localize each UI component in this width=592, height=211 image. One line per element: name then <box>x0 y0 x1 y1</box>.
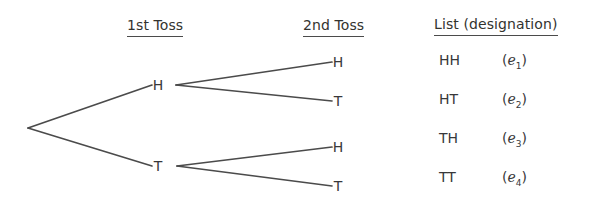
outcome-row: HH (e1) <box>434 46 584 85</box>
branch-h-to-ht <box>176 85 332 101</box>
outcome-pair: TT <box>439 169 456 185</box>
branch-h-to-hh <box>176 62 332 85</box>
outcome-index: 2 <box>516 100 522 110</box>
column-header-second-toss: 2nd Toss <box>303 17 364 37</box>
probability-tree-diagram: 1st Toss 2nd Toss List (designation) H T… <box>0 0 592 211</box>
tree-node-first-toss-t: T <box>150 159 166 173</box>
branch-root-to-h <box>28 85 152 128</box>
outcome-designation: (e1) <box>502 52 527 68</box>
outcome-index: 1 <box>516 61 522 71</box>
branch-root-to-t <box>28 128 152 166</box>
outcome-designation: (e2) <box>502 91 527 107</box>
outcome-row: TH (e3) <box>434 124 584 163</box>
outcome-index: 4 <box>516 178 522 188</box>
tree-node-first-toss-h: H <box>150 78 166 92</box>
tree-node-second-toss-4: T <box>330 179 346 193</box>
outcome-index: 3 <box>516 139 522 149</box>
branch-t-to-th <box>177 147 332 166</box>
outcome-symbol: e <box>507 130 515 146</box>
outcome-row: TT (e4) <box>434 163 584 202</box>
outcome-pair: HH <box>439 52 460 68</box>
outcome-designation: (e4) <box>502 169 527 185</box>
outcome-pair: TH <box>439 130 458 146</box>
outcome-symbol: e <box>507 52 515 68</box>
column-header-first-toss: 1st Toss <box>127 17 183 37</box>
branch-t-to-tt <box>177 166 332 186</box>
column-header-list-designation: List (designation) <box>434 16 558 36</box>
outcome-symbol: e <box>507 91 515 107</box>
outcome-row: HT (e2) <box>434 85 584 124</box>
outcome-pair: HT <box>439 91 458 107</box>
outcome-designation: (e3) <box>502 130 527 146</box>
tree-node-second-toss-1: H <box>330 55 346 69</box>
tree-node-second-toss-3: H <box>330 140 346 154</box>
tree-node-second-toss-2: T <box>330 94 346 108</box>
outcome-symbol: e <box>507 169 515 185</box>
outcome-list: HH (e1) HT (e2) TH (e3) TT (e4) <box>434 46 584 202</box>
